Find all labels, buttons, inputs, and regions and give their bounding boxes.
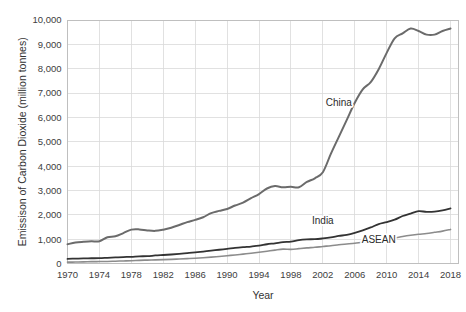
x-axis-tick-labels: 1970197419781982198619901994199820022006… [57,269,461,280]
y-tick-label: 9,000 [38,39,62,50]
y-axis-title: Emissison of Carbon Dioxide (million ton… [16,37,28,246]
y-tick-label: 0 [56,258,61,269]
y-tick-label: 8,000 [38,63,62,74]
x-tick-label: 1982 [153,269,174,280]
co2-emissions-line-chart: 01,0002,0003,0004,0005,0006,0007,0008,00… [0,0,466,312]
x-tick-label: 2014 [408,269,429,280]
y-tick-label: 3,000 [38,185,62,196]
series-label-asean: ASEAN [362,234,396,245]
x-axis-title: Year [252,289,274,301]
x-tick-label: 1998 [280,269,301,280]
y-tick-label: 4,000 [38,161,62,172]
x-tick-label: 2010 [376,269,397,280]
series-label-india: India [312,215,334,226]
x-tick-label: 1994 [248,269,269,280]
x-tick-label: 1974 [89,269,110,280]
x-tick-label: 1986 [185,269,206,280]
series-label-china: China [326,97,353,108]
y-tick-label: 5,000 [38,136,62,147]
y-tick-label: 2,000 [38,209,62,220]
y-tick-label: 1,000 [38,234,62,245]
y-tick-label: 7,000 [38,87,62,98]
x-tick-label: 1990 [217,269,238,280]
y-axis-tick-labels: 01,0002,0003,0004,0005,0006,0007,0008,00… [32,14,61,269]
y-tick-label: 10,000 [32,14,61,25]
grid-lines [68,20,459,264]
x-tick-label: 1970 [57,269,78,280]
x-tick-label: 2002 [312,269,333,280]
chart-canvas: 01,0002,0003,0004,0005,0006,0007,0008,00… [0,0,466,312]
x-tick-label: 2018 [440,269,461,280]
x-tick-label: 2006 [344,269,365,280]
y-tick-label: 6,000 [38,112,62,123]
x-tick-label: 1978 [121,269,142,280]
